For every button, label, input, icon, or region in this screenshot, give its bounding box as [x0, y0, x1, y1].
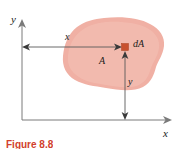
dimension-label-x: x: [65, 32, 69, 42]
element-label-da: dA: [133, 39, 144, 49]
differential-element-square: [122, 44, 129, 51]
x-axis-label: x: [163, 128, 168, 139]
area-region-highlight: [68, 22, 159, 88]
diagram-canvas: [0, 0, 181, 149]
y-axis-label: y: [11, 14, 16, 25]
figure-container: y x x y A dA Figure 8.8: [0, 0, 181, 149]
area-label: A: [99, 56, 105, 66]
dimension-label-y: y: [128, 77, 132, 87]
figure-caption: Figure 8.8: [6, 139, 53, 149]
